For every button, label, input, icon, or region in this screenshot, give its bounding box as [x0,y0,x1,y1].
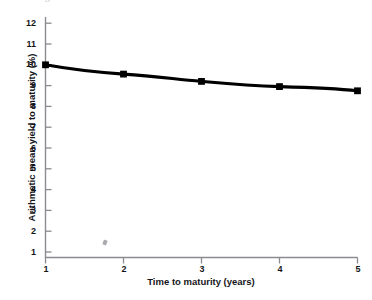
x-axis-ticks [46,258,358,264]
y-axis-ticks [46,23,52,252]
x-tick-label-1: 1 [38,265,54,274]
data-point [354,87,361,94]
x-tick-label-5: 5 [350,265,366,274]
x-tick-label-3: 3 [194,265,210,274]
y-tick-label-1: 1 [22,248,36,257]
data-point [198,78,205,85]
chart-plot-area [0,0,372,300]
y-tick-label-12: 12 [19,19,36,28]
y-axis-title: Arithmetic mean yield to maturity (%) [26,38,37,238]
series-line [46,65,358,91]
data-point [120,71,127,78]
x-tick-label-4: 4 [272,265,288,274]
data-point [42,61,49,68]
x-tick-label-2: 2 [116,265,132,274]
chart-figure: a g [0,0,372,300]
data-point [276,83,283,90]
x-axis-title: Time to maturity (years) [45,276,357,287]
